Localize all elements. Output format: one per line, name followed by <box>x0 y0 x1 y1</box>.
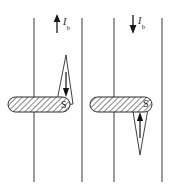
current-label-right: Ib <box>138 16 145 29</box>
south-pole-label-left: S <box>61 100 67 110</box>
left-panel <box>8 14 82 182</box>
current-symbol-right: I <box>138 15 141 26</box>
current-subscript-left: b <box>67 24 70 31</box>
current-symbol-left: I <box>63 16 66 27</box>
physics-figure: Ib Ib S S <box>0 0 174 186</box>
south-pole-label-right: S <box>143 99 149 109</box>
right-panel <box>90 15 162 182</box>
figure-canvas <box>0 0 174 186</box>
current-label-left: Ib <box>63 17 70 30</box>
current-subscript-right: b <box>142 23 145 30</box>
current-arrow-up-icon <box>54 14 61 33</box>
current-arrow-down-icon <box>130 15 137 34</box>
